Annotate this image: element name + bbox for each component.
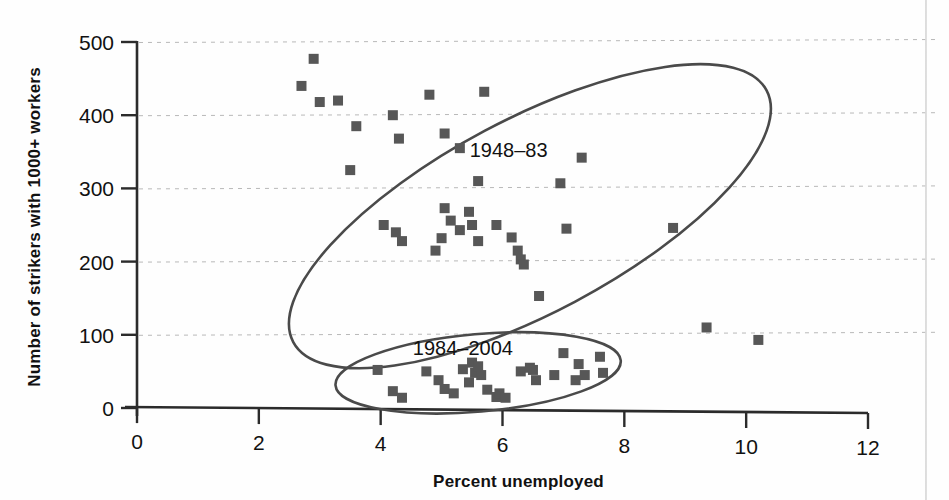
data-point-g1-5 <box>388 110 398 120</box>
data-point-g2-0 <box>373 365 383 375</box>
group-label-1: 1948–83 <box>470 139 548 161</box>
y-axis-title: Number of strikers with 1000+ workers <box>25 67 44 387</box>
data-point-g2-25 <box>580 370 590 380</box>
data-point-g1-11 <box>577 153 587 163</box>
x-tick-label-6: 6 <box>497 433 509 456</box>
data-point-g1-1 <box>296 81 306 91</box>
x-tick-label-12: 12 <box>856 436 879 459</box>
data-point-g1-17 <box>464 207 474 217</box>
data-point-g1-13 <box>473 176 483 186</box>
data-point-g1-18 <box>446 216 456 226</box>
data-point-g1-33 <box>534 291 544 301</box>
data-point-g1-15 <box>379 220 389 230</box>
x-tick-label-10: 10 <box>734 435 757 458</box>
data-point-g2-7 <box>458 364 468 374</box>
gridline-y-500 <box>139 40 940 43</box>
data-point-g1-14 <box>555 178 565 188</box>
data-point-g2-22 <box>558 348 568 358</box>
y-tick-label-300: 300 <box>79 177 114 200</box>
data-point-g2-19 <box>528 365 538 375</box>
data-point-g1-4 <box>351 121 361 131</box>
data-point-g1-24 <box>397 236 407 246</box>
data-point-g1-3 <box>315 97 325 107</box>
data-point-g1-35 <box>753 335 763 345</box>
data-point-g2-26 <box>595 352 605 362</box>
data-point-g2-24 <box>574 359 584 369</box>
data-point-g2-21 <box>549 370 559 380</box>
gridline-y-300 <box>139 186 940 189</box>
x-axis-title: Percent unemployed <box>433 472 604 491</box>
y-tick-label-400: 400 <box>79 104 114 127</box>
data-point-g2-2 <box>397 393 407 403</box>
data-point-g1-21 <box>491 220 501 230</box>
x-tick-label-2: 2 <box>253 431 265 454</box>
data-point-g1-9 <box>440 129 450 139</box>
data-point-g1-0 <box>309 54 319 64</box>
data-point-g1-27 <box>430 246 440 256</box>
data-point-g1-16 <box>440 203 450 213</box>
data-point-g1-32 <box>519 260 529 270</box>
data-point-g2-12 <box>476 370 486 380</box>
y-tick-label-500: 500 <box>79 31 114 54</box>
data-point-g1-30 <box>513 246 523 256</box>
gridline-y-400 <box>139 113 940 116</box>
data-point-g1-29 <box>668 223 678 233</box>
data-point-g1-6 <box>424 90 434 100</box>
page-edge-shadow <box>925 0 927 500</box>
gridline-y-200 <box>139 259 940 262</box>
data-point-g2-11 <box>473 361 483 371</box>
y-tick-label-200: 200 <box>79 251 114 274</box>
data-point-g1-12 <box>345 165 355 175</box>
data-point-g1-28 <box>561 224 571 234</box>
data-point-g2-6 <box>449 388 459 398</box>
data-point-g2-17 <box>516 366 526 376</box>
data-point-g2-13 <box>482 385 492 395</box>
x-tick-label-4: 4 <box>375 432 387 455</box>
x-tick-label-0: 0 <box>131 430 143 453</box>
data-point-g2-16 <box>501 393 511 403</box>
data-point-g1-10 <box>455 143 465 153</box>
data-point-g2-3 <box>421 366 431 376</box>
figure-canvas: 0100200300400500024681012Percent unemplo… <box>0 0 949 500</box>
data-point-g1-23 <box>391 227 401 237</box>
data-point-g1-20 <box>455 225 465 235</box>
data-point-g1-7 <box>479 87 489 97</box>
data-point-g2-4 <box>434 375 444 385</box>
scatter-plot: 0100200300400500024681012Percent unemplo… <box>0 0 949 500</box>
data-point-g1-2 <box>333 96 343 106</box>
group-label-2: 1984–2004 <box>413 337 513 359</box>
y-tick-label-100: 100 <box>79 324 114 347</box>
data-point-g1-26 <box>473 236 483 246</box>
data-point-g1-25 <box>437 233 447 243</box>
data-point-g2-20 <box>531 375 541 385</box>
data-point-g1-8 <box>394 134 404 144</box>
data-point-g2-8 <box>464 377 474 387</box>
data-point-g2-5 <box>440 384 450 394</box>
data-point-g1-34 <box>702 322 712 332</box>
data-point-g1-22 <box>507 232 517 242</box>
x-tick-label-8: 8 <box>618 434 630 457</box>
data-point-g2-23 <box>571 375 581 385</box>
data-point-g2-27 <box>598 368 608 378</box>
y-tick-label-0: 0 <box>102 397 114 420</box>
data-point-g2-1 <box>388 386 398 396</box>
data-point-g1-19 <box>467 220 477 230</box>
